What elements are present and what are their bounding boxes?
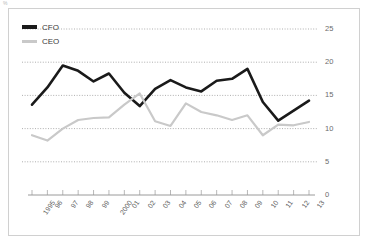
y-tick-label: 20 (325, 57, 333, 66)
legend-swatch-ceo-icon (22, 40, 37, 43)
series-line-ceo (32, 93, 309, 140)
y-tick-label: 25 (325, 24, 333, 33)
gridlines-group (22, 29, 317, 162)
legend-label-cfo: CFO (42, 23, 59, 32)
legend-label-ceo: CEO (42, 37, 59, 46)
y-tick-label: 10 (325, 124, 333, 133)
y-tick-label: 5 (325, 157, 329, 166)
x-axis-group (28, 190, 315, 195)
chart-page: % CFO CEO 0510152025 1995969798992000010… (0, 0, 370, 245)
legend-item-ceo: CEO (22, 34, 84, 48)
series-line-cfo (32, 66, 309, 121)
y-tick-label: 15 (325, 90, 333, 99)
chart-legend: CFO CEO (22, 20, 84, 48)
legend-item-cfo: CFO (22, 20, 84, 34)
y-tick-label: 0 (325, 190, 329, 199)
series-group (32, 66, 309, 141)
legend-swatch-cfo-icon (22, 25, 37, 29)
